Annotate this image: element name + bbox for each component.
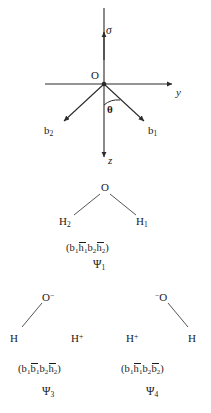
bond-vector-b2-label: b2	[44, 125, 53, 138]
theta-label: θ	[107, 104, 113, 115]
right-hydrogen-cation-label: H+	[126, 333, 138, 344]
origin-point	[102, 82, 107, 87]
y-axis-label: y	[176, 87, 181, 98]
left-hydrogen-label: H	[10, 333, 18, 344]
top-oxygen-label: O	[101, 182, 109, 193]
right-configuration-formula: (b1h1b2b2)	[121, 364, 164, 376]
top-wavefunction-label: Ψ1	[93, 259, 105, 272]
top-configuration-formula: (b1h1b2h2)	[66, 243, 109, 255]
figure-line-art	[0, 0, 211, 413]
left-oxygen-label: O−	[42, 292, 54, 303]
bond-vector-b1-label: b1	[148, 125, 157, 138]
right-oxygen-label: −O	[155, 292, 167, 303]
chemistry-figure: σ O y z θ b2 b1 O H2 H1 (b1h1b2h2) Ψ1 O−…	[0, 0, 211, 413]
top-hydrogen-1-label: H1	[136, 216, 148, 229]
sigma-axis-label: σ	[106, 25, 112, 37]
origin-label: O	[91, 70, 99, 81]
top-hydrogen-2-label: H2	[59, 216, 71, 229]
left-hydrogen-cation-label: H+	[71, 333, 83, 344]
water-bonds-left	[22, 303, 42, 327]
right-wavefunction-label: Ψ4	[146, 386, 158, 399]
right-hydrogen-label: H	[188, 333, 196, 344]
z-axis-label: z	[108, 155, 112, 166]
water-bonds-top	[74, 194, 136, 215]
left-configuration-formula: (b1b1b2h2)	[18, 364, 61, 376]
left-wavefunction-label: Ψ3	[42, 386, 54, 399]
water-bonds-right	[168, 303, 188, 327]
